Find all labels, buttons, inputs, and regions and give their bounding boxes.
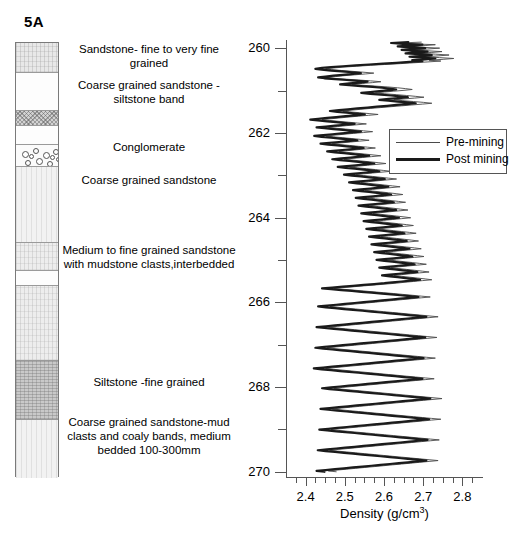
lithology-bed-coarse-grained-sandstone xyxy=(16,167,58,244)
figure-5a: 5A Sandstone- fine to very fine grainedC… xyxy=(0,0,517,534)
y-tick-label-268: 268 xyxy=(234,379,270,394)
x-tick-label-2.4: 2.4 xyxy=(297,489,315,504)
x-tick-2.5 xyxy=(345,477,346,486)
x-tick-label-2.7: 2.7 xyxy=(414,489,432,504)
x-tick-2.55 xyxy=(364,477,365,483)
conglomerate-pebble-icon xyxy=(36,158,43,165)
conglomerate-pebble-icon xyxy=(22,151,29,158)
conglomerate-pebble-icon xyxy=(25,160,31,166)
lithology-bed-coarse-grained-sandstone-upper xyxy=(16,73,58,111)
x-axis-title: Density (g/cm3) xyxy=(286,505,483,521)
y-tick-269 xyxy=(278,429,286,430)
x-tick-label-2.5: 2.5 xyxy=(336,489,354,504)
legend-line-pre-mining-icon xyxy=(396,142,440,143)
x-tick-label-2.6: 2.6 xyxy=(375,489,393,504)
conglomerate-pebble-icon xyxy=(29,154,34,159)
desc-coarse-grained-sandstone: Coarse grained sandstone xyxy=(59,173,239,187)
x-tick-2.8 xyxy=(462,477,463,486)
legend-label-post-mining: Post mining xyxy=(446,153,509,165)
lithology-bed-medium-to-fine-sandstone-b xyxy=(16,286,58,361)
y-tick-label-260: 260 xyxy=(234,40,270,55)
x-tick-2.7 xyxy=(423,477,424,486)
y-tick-266 xyxy=(275,302,286,303)
legend-label-pre-mining: Pre-mining xyxy=(446,136,504,148)
y-tick-label-266: 266 xyxy=(234,294,270,309)
conglomerate-pebble-icon xyxy=(43,152,50,159)
y-tick-270 xyxy=(275,472,286,473)
lithology-bed-medium-to-fine-sandstone-a xyxy=(16,243,58,271)
x-axis-title-tail: ) xyxy=(425,506,429,521)
y-tick-260 xyxy=(275,48,286,49)
y-tick-261 xyxy=(278,91,286,92)
desc-conglomerate: Conglomerate xyxy=(59,140,239,154)
y-tick-264 xyxy=(275,218,286,219)
y-tick-label-264: 264 xyxy=(234,210,270,225)
desc-coarse-sandstone-siltstone-band: Coarse grained sandstone - siltstone ban… xyxy=(59,78,239,106)
x-tick-2.6 xyxy=(384,477,385,486)
panel-label: 5A xyxy=(24,13,44,30)
lithology-bed-mudstone-clast-interbed xyxy=(16,271,58,286)
x-tick-2.825 xyxy=(472,477,473,483)
y-tick-265 xyxy=(278,260,286,261)
desc-sandstone-fine: Sandstone- fine to very fine grained xyxy=(59,42,239,70)
y-tick-267 xyxy=(278,345,286,346)
x-tick-2.475 xyxy=(335,477,336,483)
desc-coarse-sandstone-mud-clasts: Coarse grained sandstone-mud clasts and … xyxy=(59,415,239,457)
lithology-bed-conglomerate xyxy=(16,145,58,166)
lithology-bed-sandstone-below-siltstone-band xyxy=(16,126,58,145)
y-tick-262 xyxy=(275,133,286,134)
legend: Pre-mining Post mining xyxy=(389,129,507,174)
x-tick-2.4 xyxy=(306,477,307,486)
y-tick-263 xyxy=(278,175,286,176)
legend-entry-pre-mining: Pre-mining xyxy=(396,135,504,149)
y-tick-label-270: 270 xyxy=(234,464,270,479)
conglomerate-pebble-icon xyxy=(56,157,58,162)
x-tick-2.45 xyxy=(325,477,326,483)
legend-entry-post-mining: Post mining xyxy=(396,152,509,166)
x-tick-2.775 xyxy=(453,477,454,483)
lithology-bed-coarse-grained-sandstone-basal xyxy=(16,420,58,478)
density-log-plot xyxy=(286,40,482,476)
x-tick-2.625 xyxy=(394,477,395,483)
y-tick-label-262: 262 xyxy=(234,125,270,140)
x-axis-title-text: Density (g/cm xyxy=(340,506,419,521)
x-tick-2.75 xyxy=(443,477,444,483)
x-tick-2.725 xyxy=(433,477,434,483)
lithology-column xyxy=(15,42,59,477)
x-tick-2.425 xyxy=(315,477,316,483)
lithology-bed-siltstone-fine-grained xyxy=(16,361,58,421)
lithology-bed-sandstone-fine-to-very-fine xyxy=(16,43,58,73)
desc-siltstone-fine-grained: Siltstone -fine grained xyxy=(59,375,239,389)
x-tick-2.375 xyxy=(296,477,297,483)
x-tick-2.675 xyxy=(413,477,414,483)
x-tick-2.575 xyxy=(374,477,375,483)
x-tick-label-2.8: 2.8 xyxy=(453,489,471,504)
desc-medium-to-fine-sandstone: Medium to fine grained sandstone with mu… xyxy=(59,243,239,271)
x-tick-2.525 xyxy=(355,477,356,483)
legend-line-post-mining-icon xyxy=(396,158,440,161)
y-tick-268 xyxy=(275,387,286,388)
conglomerate-pebble-icon xyxy=(33,148,39,154)
lithology-bed-siltstone-band xyxy=(16,111,58,126)
x-tick-2.65 xyxy=(404,477,405,483)
density-curves xyxy=(286,40,482,476)
conglomerate-pebble-icon xyxy=(50,155,55,160)
